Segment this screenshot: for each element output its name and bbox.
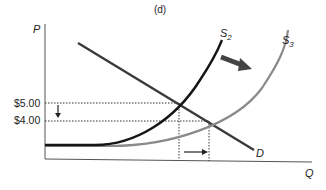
demand-label: D (256, 147, 264, 159)
supply-shift-arrow (221, 57, 252, 71)
supply-curve-s3 (45, 30, 288, 146)
price-label-high: $5.00 (14, 97, 40, 109)
supply-demand-chart: (d) P Q $5.00 $4.00 D S3 S2 (0, 0, 326, 190)
price-label-low: $4.00 (14, 114, 40, 126)
chart-title: (d) (154, 4, 166, 15)
x-axis (45, 159, 312, 162)
quantity-right-arrow (184, 149, 208, 155)
x-axis-label: Q (305, 167, 314, 179)
price-down-arrow (55, 105, 61, 118)
supply-curve-s2 (45, 40, 222, 145)
y-axis-label: P (33, 23, 41, 35)
s2-label: S2 (220, 27, 232, 42)
